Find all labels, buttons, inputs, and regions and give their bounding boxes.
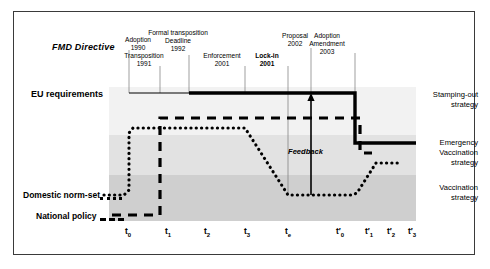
x-tick-tp0-subscript: 0 bbox=[341, 232, 344, 238]
legend-stub-national-policy bbox=[100, 218, 124, 221]
x-tick-te-subscript: e bbox=[288, 232, 291, 238]
strategy-label-vaccination-line1: Vaccination bbox=[404, 183, 478, 193]
annotation-adoption-amendment-2003-line2: Amendment bbox=[296, 40, 358, 48]
label-national-policy: National policy bbox=[36, 211, 96, 221]
x-tick-t3-subscript: 3 bbox=[247, 232, 250, 238]
annotation-formal-transposition-deadline-1992-line2: Deadline bbox=[147, 37, 209, 45]
annotation-transposition-1991: Transposition1991 bbox=[113, 52, 175, 68]
x-tick-te: te bbox=[278, 226, 298, 238]
x-tick-t1: t1 bbox=[158, 226, 178, 238]
label-eu-requirements: EU requirements bbox=[31, 89, 103, 100]
x-tick-t2-subscript: 2 bbox=[207, 232, 210, 238]
annotation-lock-in-2001: Lock-in2001 bbox=[236, 52, 298, 68]
x-tick-tp2: t′2 bbox=[381, 226, 401, 238]
x-tick-t1-subscript: 1 bbox=[168, 232, 171, 238]
x-tick-tp1-subscript: 1 bbox=[370, 232, 373, 238]
strategy-label-emergency-vaccination-line3: strategy bbox=[404, 158, 478, 168]
x-tick-tp0: t′0 bbox=[330, 226, 350, 238]
strategy-label-emergency-vaccination: EmergencyVaccinationstrategy bbox=[404, 138, 478, 168]
annotation-lock-in-2001-line2: 2001 bbox=[236, 60, 298, 68]
strategy-label-stamping-out-line2: strategy bbox=[404, 100, 478, 110]
annotation-adoption-amendment-2003-line3: 2003 bbox=[296, 48, 358, 56]
annotation-formal-transposition-deadline-1992-line1: Formal transposition bbox=[147, 29, 209, 37]
annotation-adoption-amendment-2003: AdoptionAmendment2003 bbox=[296, 32, 358, 57]
strategy-label-stamping-out-line1: Stamping-out bbox=[404, 90, 478, 100]
annotation-lock-in-2001-line1: Lock-in bbox=[236, 52, 298, 60]
x-tick-t2: t2 bbox=[197, 226, 217, 238]
figure-root: FMD Directive EU requirements Domestic n… bbox=[0, 0, 490, 269]
feedback-arrow bbox=[307, 93, 314, 195]
x-tick-t0-subscript: 0 bbox=[128, 232, 131, 238]
legend-stub-domestic-norm-set bbox=[100, 197, 122, 200]
strategy-label-stamping-out: Stamping-outstrategy bbox=[404, 90, 478, 110]
label-feedback: Feedback bbox=[288, 147, 323, 156]
x-tick-tp1: t′1 bbox=[359, 226, 379, 238]
x-tick-t0: t0 bbox=[118, 226, 138, 238]
strategy-label-vaccination: Vaccinationstrategy bbox=[404, 183, 478, 203]
strategy-label-emergency-vaccination-line2: Vaccination bbox=[404, 148, 478, 158]
strategy-label-vaccination-line2: strategy bbox=[404, 193, 478, 203]
annotation-adoption-amendment-2003-line1: Adoption bbox=[296, 32, 358, 40]
x-tick-tp3: t′3 bbox=[402, 226, 422, 238]
label-fmd-directive: FMD Directive bbox=[52, 42, 115, 53]
series-national-policy bbox=[112, 118, 372, 215]
x-tick-t3: t3 bbox=[237, 226, 257, 238]
annotation-leader-lines bbox=[129, 48, 355, 195]
x-tick-tp3-subscript: 3 bbox=[413, 232, 416, 238]
annotation-transposition-1991-line2: 1991 bbox=[113, 60, 175, 68]
annotation-formal-transposition-deadline-1992: Formal transpositionDeadline1992 bbox=[147, 29, 209, 54]
strategy-label-emergency-vaccination-line1: Emergency bbox=[404, 138, 478, 148]
x-tick-tp2-subscript: 2 bbox=[392, 232, 395, 238]
label-domestic-norm-set: Domestic norm-set bbox=[23, 190, 100, 200]
